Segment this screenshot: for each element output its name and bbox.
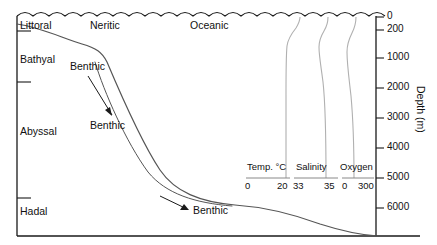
zone-label-abyssal: Abyssal bbox=[20, 126, 57, 137]
depth-tick-0: 0 bbox=[387, 11, 393, 21]
zone-label-hadal: Hadal bbox=[20, 206, 47, 217]
salinity-profile-curve bbox=[319, 17, 328, 178]
depth-tick-4000: 4000 bbox=[387, 142, 409, 152]
salinity-scale-min: 33 bbox=[293, 181, 304, 191]
profile-label-salinity: Salinity bbox=[296, 162, 327, 172]
profile-label-temperature: Temp. °C bbox=[247, 162, 286, 172]
seafloor-inner-contour-line bbox=[95, 62, 232, 206]
depth-tick-200: 200 bbox=[387, 24, 404, 34]
temperature-scale-max: 20 bbox=[277, 181, 288, 191]
profile-label-oxygen: Oxygen bbox=[340, 162, 373, 172]
oxygen-scale-min: 0 bbox=[342, 181, 347, 191]
depth-tick-1000: 1000 bbox=[387, 52, 409, 62]
sea-surface-wave-line bbox=[17, 13, 385, 17]
oxygen-profile-curve bbox=[347, 17, 356, 178]
ocean-zones-diagram: Littoral Bathyal Abyssal Hadal Neritic O… bbox=[0, 0, 437, 245]
depth-axis-ticks bbox=[376, 17, 384, 208]
temperature-scale-min: 0 bbox=[245, 181, 250, 191]
benthic-arrow-upper bbox=[88, 76, 112, 116]
benthic-label-middle: Benthic bbox=[90, 120, 125, 131]
depth-tick-2000: 2000 bbox=[387, 82, 409, 92]
depth-tick-3000: 3000 bbox=[387, 112, 409, 122]
zone-label-littoral: Littoral bbox=[20, 20, 52, 31]
benthic-label-upper: Benthic bbox=[70, 61, 105, 72]
depth-tick-6000: 6000 bbox=[387, 202, 409, 212]
depth-tick-5000: 5000 bbox=[387, 172, 409, 182]
benthic-arrow-lower bbox=[160, 196, 189, 210]
salinity-scale-max: 35 bbox=[324, 181, 335, 191]
surface-zone-label-neritic: Neritic bbox=[90, 20, 120, 31]
oxygen-scale-max: 300 bbox=[358, 181, 374, 191]
temperature-profile-curve bbox=[286, 17, 300, 178]
depth-axis-title: Depth (m) bbox=[416, 86, 427, 133]
zone-label-bathyal: Bathyal bbox=[20, 54, 55, 65]
surface-zone-label-oceanic: Oceanic bbox=[190, 20, 229, 31]
benthic-label-lower: Benthic bbox=[193, 205, 228, 216]
